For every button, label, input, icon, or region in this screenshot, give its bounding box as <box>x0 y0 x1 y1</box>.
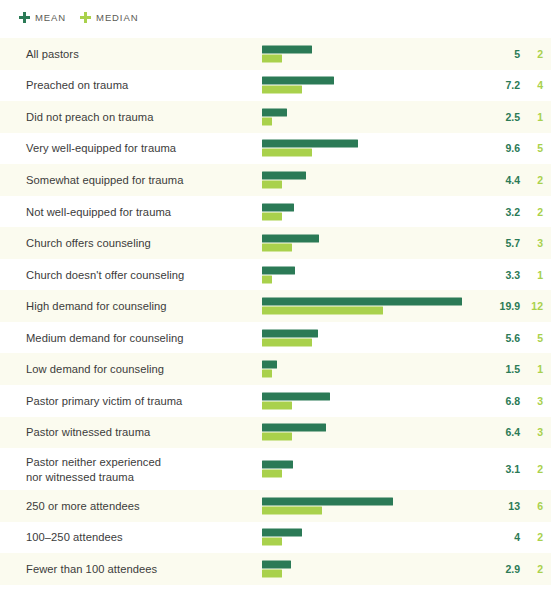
bar-median <box>262 506 322 514</box>
chart-row: 100–250 attendees42 <box>0 522 551 554</box>
chart-container: MEAN MEDIAN All pastors52Preached on tra… <box>0 0 551 590</box>
row-label: High demand for counseling <box>26 299 167 314</box>
chart-row: Church offers counseling5.73 <box>0 227 551 259</box>
value-median: 2 <box>525 48 543 60</box>
bar-median <box>262 212 282 220</box>
chart-row: Low demand for counseling1.51 <box>0 353 551 385</box>
bar-mean <box>262 461 293 469</box>
row-label: Preached on trauma <box>26 78 128 93</box>
bar-mean <box>262 424 326 432</box>
bar-mean <box>262 329 318 337</box>
row-bars <box>262 497 492 514</box>
row-bars <box>262 529 492 546</box>
value-median: 2 <box>525 531 543 543</box>
row-label: Not well-equipped for trauma <box>26 204 171 219</box>
value-median: 5 <box>525 332 543 344</box>
row-bars <box>262 235 492 252</box>
value-mean: 5 <box>490 48 520 60</box>
bar-median <box>262 180 282 188</box>
bar-median <box>262 370 272 378</box>
row-label: Church doesn't offer counseling <box>26 267 184 282</box>
chart-row: Did not preach on trauma2.51 <box>0 101 551 133</box>
value-median: 5 <box>525 142 543 154</box>
row-bars <box>262 140 492 157</box>
value-median: 2 <box>525 463 543 475</box>
row-label: Medium demand for counseling <box>26 330 184 345</box>
bar-median <box>262 433 292 441</box>
chart-row: Pastor witnessed trauma6.43 <box>0 417 551 449</box>
value-median: 12 <box>525 300 543 312</box>
value-median: 3 <box>525 237 543 249</box>
value-mean: 5.6 <box>490 332 520 344</box>
chart-row: 250 or more attendees136 <box>0 490 551 522</box>
value-mean: 7.2 <box>490 79 520 91</box>
chart-row: Preached on trauma7.24 <box>0 70 551 102</box>
chart-row: Church doesn't offer counseling3.31 <box>0 259 551 291</box>
bar-median <box>262 149 312 157</box>
bar-mean <box>262 108 287 116</box>
bar-mean <box>262 235 319 243</box>
chart-row: Not well-equipped for trauma3.22 <box>0 196 551 228</box>
value-median: 1 <box>525 269 543 281</box>
row-bars <box>262 461 492 478</box>
row-label: Pastor primary victim of trauma <box>26 394 182 409</box>
value-median: 3 <box>525 395 543 407</box>
value-median: 1 <box>525 111 543 123</box>
chart-row: Very well-equipped for trauma9.65 <box>0 133 551 165</box>
value-mean: 19.9 <box>490 300 520 312</box>
row-label: Very well-equipped for trauma <box>26 141 176 156</box>
value-median: 2 <box>525 174 543 186</box>
row-label: Pastor neither experienced nor witnessed… <box>26 455 161 484</box>
value-mean: 2.9 <box>490 563 520 575</box>
row-bars <box>262 108 492 125</box>
bar-mean <box>262 298 462 306</box>
bar-mean <box>262 560 291 568</box>
bar-mean <box>262 529 302 537</box>
chart-rows: All pastors52Preached on trauma7.24Did n… <box>0 38 551 585</box>
value-mean: 2.5 <box>490 111 520 123</box>
legend-label-median: MEDIAN <box>96 12 138 23</box>
value-mean: 5.7 <box>490 237 520 249</box>
plus-marker-icon <box>19 12 30 23</box>
value-median: 2 <box>525 206 543 218</box>
bar-median <box>262 54 282 62</box>
chart-row: All pastors52 <box>0 38 551 70</box>
value-mean: 3.2 <box>490 206 520 218</box>
row-label: Pastor witnessed trauma <box>26 425 150 440</box>
value-mean: 3.1 <box>490 463 520 475</box>
chart-row: Somewhat equipped for trauma4.42 <box>0 164 551 196</box>
bar-mean <box>262 77 334 85</box>
row-label: Low demand for counseling <box>26 362 164 377</box>
value-median: 4 <box>525 79 543 91</box>
legend-item-median[interactable]: MEDIAN <box>80 12 138 23</box>
value-median: 3 <box>525 426 543 438</box>
chart-row: High demand for counseling19.912 <box>0 290 551 322</box>
bar-mean <box>262 392 330 400</box>
row-label: 100–250 attendees <box>26 530 123 545</box>
bar-median <box>262 117 272 125</box>
bar-mean <box>262 361 277 369</box>
value-mean: 1.5 <box>490 363 520 375</box>
row-label: Fewer than 100 attendees <box>26 562 157 577</box>
bar-median <box>262 244 292 252</box>
chart-legend: MEAN MEDIAN <box>19 9 138 25</box>
bar-mean <box>262 266 295 274</box>
plus-marker-icon <box>80 12 91 23</box>
value-mean: 9.6 <box>490 142 520 154</box>
row-bars <box>262 424 492 441</box>
value-median: 2 <box>525 563 543 575</box>
legend-item-mean[interactable]: MEAN <box>19 12 66 23</box>
value-median: 6 <box>525 500 543 512</box>
bar-median <box>262 307 383 315</box>
value-mean: 3.3 <box>490 269 520 281</box>
row-label: Somewhat equipped for trauma <box>26 173 184 188</box>
bar-mean <box>262 171 306 179</box>
bar-median <box>262 401 292 409</box>
row-bars <box>262 77 492 94</box>
bar-median <box>262 538 282 546</box>
row-label: All pastors <box>26 47 79 62</box>
row-bars <box>262 329 492 346</box>
chart-row: Fewer than 100 attendees2.92 <box>0 553 551 585</box>
row-bars <box>262 560 492 577</box>
chart-row: Pastor neither experienced nor witnessed… <box>0 448 551 490</box>
